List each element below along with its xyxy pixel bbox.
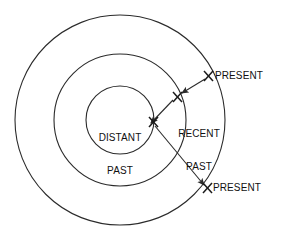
arrow-recent-past-to-distant-past [151, 100, 173, 123]
x-marker-recent-past [173, 92, 182, 102]
arrow-present-top-to-recent-past [182, 79, 205, 93]
label-present-top: PRESENT [215, 70, 263, 81]
label-recent-past-line1: RECENT [174, 128, 224, 139]
label-recent-past: RECENT PAST [174, 106, 224, 194]
label-distant-past-line2: PAST [92, 165, 148, 176]
label-distant-past: DISTANT PAST [92, 110, 148, 198]
x-marker-present-top [204, 71, 213, 81]
label-recent-past-line2: PAST [174, 161, 224, 172]
label-present-bottom: PRESENT [213, 182, 261, 193]
label-distant-past-line1: DISTANT [92, 132, 148, 143]
diagram-canvas: DISTANT PAST RECENT PAST PRESENT PRESENT [0, 0, 286, 241]
